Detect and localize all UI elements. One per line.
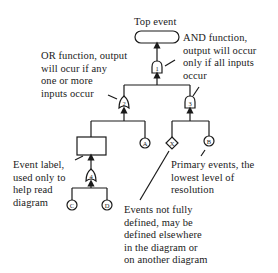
top-event-box	[135, 31, 179, 43]
gate-2-id: 2	[122, 100, 125, 107]
or-function-annotation: OR function, output will ocur if any one…	[41, 50, 127, 100]
event-a-label: A	[143, 140, 148, 147]
event-d-label: D	[105, 202, 110, 209]
event-label-annotation: Event label, used only to help read diag…	[13, 159, 66, 209]
undeveloped-events-annotation: Events not fully defined, may be defined…	[124, 204, 207, 267]
event-c-label: C	[70, 202, 74, 209]
gate-3-id: 3	[188, 100, 191, 107]
gate-1-id: 1	[155, 65, 158, 72]
and-function-annotation: AND function, output will occur only if …	[183, 32, 256, 82]
event-b-label: B	[207, 138, 212, 145]
event-label-box	[77, 137, 106, 155]
event-x-label: X	[170, 140, 175, 147]
top-event-label: Top event	[134, 16, 176, 29]
primary-events-annotation: Primary events, the lowest level of reso…	[171, 159, 254, 197]
